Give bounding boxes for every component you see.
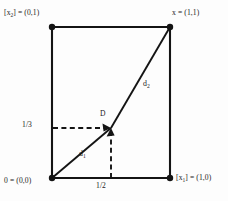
unit-square-outline xyxy=(52,27,170,178)
vertex-label-top-left: [x2] = (0,1) xyxy=(4,9,39,18)
vertex-dot-top-right xyxy=(167,24,173,30)
vertex-dot-bottom-right xyxy=(167,175,173,181)
x-axis-tick-label: 1/2 xyxy=(96,182,106,190)
figure-container: [x2] = (0,1) x = (1,1) 0 = (0,0) [x1] = … xyxy=(0,0,228,201)
vertex-label-origin-suffix: = (0,0) xyxy=(8,176,31,185)
segment-label-d1-subscript: 1 xyxy=(83,153,86,159)
vertex-dot-top-left xyxy=(49,24,55,30)
point-label-d: D xyxy=(100,110,106,118)
segment-label-d2: d2 xyxy=(143,80,150,89)
segment-label-d1: d1 xyxy=(79,150,86,159)
vertex-label-top-left-suffix: ] = (0,1) xyxy=(13,8,39,17)
vertex-label-origin: 0 = (0,0) xyxy=(4,177,31,186)
vertex-label-bottom-right: [x1] = (1,0) xyxy=(176,174,211,183)
vertex-label-bottom-right-suffix: ] = (1,0) xyxy=(185,173,211,182)
diagram-canvas xyxy=(0,0,228,201)
segment-label-d2-subscript: 2 xyxy=(147,83,150,89)
y-axis-tick-label: 1/3 xyxy=(22,121,32,129)
vertex-label-top-right: x = (1,1) xyxy=(172,9,199,18)
vertex-dot-bottom-left xyxy=(49,175,55,181)
segment-d2-line xyxy=(111,27,170,128)
vertex-label-top-right-suffix: = (1,1) xyxy=(176,8,199,17)
distance-segments xyxy=(52,27,170,178)
